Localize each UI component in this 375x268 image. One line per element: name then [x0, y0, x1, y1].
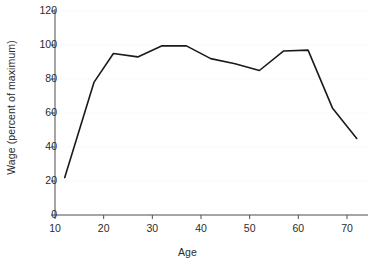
x-tick-label: 40 [187, 222, 215, 234]
x-tick-label: 30 [138, 222, 166, 234]
x-tick-label: 70 [333, 222, 361, 234]
y-tick-label: 20 [29, 174, 57, 186]
x-tick-label: 50 [236, 222, 264, 234]
data-line-series-wage-profile [65, 46, 357, 178]
y-tick-label: 40 [29, 140, 57, 152]
gridlines-group [55, 11, 368, 181]
x-tick-label: 60 [284, 222, 312, 234]
tick-marks-group [51, 11, 347, 219]
y-tick-label: 60 [29, 106, 57, 118]
y-tick-label: 80 [29, 72, 57, 84]
chart-container: Wage (percent of maximum) 02040608010012… [0, 0, 375, 268]
x-tick-label: 20 [90, 222, 118, 234]
x-axis-title: Age [0, 246, 375, 258]
y-tick-label: 120 [29, 4, 57, 16]
y-tick-label: 0 [29, 208, 57, 220]
y-tick-label: 100 [29, 38, 57, 50]
x-tick-label: 10 [41, 222, 69, 234]
